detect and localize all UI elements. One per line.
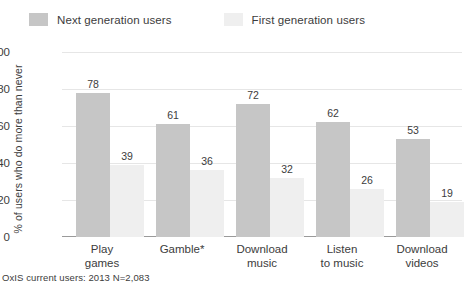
y-tick-label-0: 0 (0, 231, 10, 243)
x-label-download-music-line1: Download (220, 243, 304, 257)
y-tick-label-60: 60 (0, 120, 10, 132)
y-tick-label-100: 100 (0, 46, 10, 58)
y-axis-title: % of users who do more than never (12, 54, 24, 244)
bar-group-gamble: 61 36 (142, 52, 222, 237)
bar-group-download-music: 72 32 (222, 52, 302, 237)
bar-value-next-generation-gamble: 61 (151, 109, 195, 121)
bar-first-generation-listen-to-music[interactable]: 26 (350, 189, 384, 237)
x-label-listen-to-music: Listen to music (300, 243, 384, 270)
bar-first-generation-download-music[interactable]: 32 (270, 178, 304, 237)
bar-first-generation-play-games[interactable]: 39 (110, 165, 144, 237)
x-label-listen-to-music-line2: to music (300, 257, 384, 271)
x-label-download-music: Download music (220, 243, 304, 270)
bar-value-next-generation-download-videos: 53 (391, 124, 435, 136)
bar-next-generation-gamble[interactable]: 61 (156, 124, 190, 237)
bar-next-generation-play-games[interactable]: 78 (76, 93, 110, 237)
x-label-play-games: Play games (60, 243, 144, 270)
y-tick-label-40: 40 (0, 157, 10, 169)
bar-value-next-generation-play-games: 78 (71, 78, 115, 90)
bar-series-container: 78 39 61 36 72 32 62 (62, 52, 462, 237)
y-tick-label-20: 20 (0, 194, 10, 206)
x-label-gamble-line1: Gamble* (140, 243, 224, 257)
bar-value-first-generation-download-videos: 19 (425, 187, 469, 199)
y-tick-label-80: 80 (0, 83, 10, 95)
x-label-listen-to-music-line1: Listen (300, 243, 384, 257)
bar-first-generation-download-videos[interactable]: 19 (430, 202, 464, 237)
x-label-download-music-line2: music (220, 257, 304, 271)
x-label-download-videos-line1: Download (380, 243, 464, 257)
chart-footnote: OxIS current users: 2013 N=2,083 (2, 272, 150, 283)
x-label-gamble: Gamble* (140, 243, 224, 257)
x-label-play-games-line1: Play (60, 243, 144, 257)
x-label-download-videos: Download videos (380, 243, 464, 270)
chart-plot: % of users who do more than never 100 80… (0, 0, 472, 291)
bar-first-generation-gamble[interactable]: 36 (190, 170, 224, 237)
bar-group-play-games: 78 39 (62, 52, 142, 237)
bar-value-next-generation-download-music: 72 (231, 89, 275, 101)
bar-group-download-videos: 53 19 (382, 52, 462, 237)
bar-value-next-generation-listen-to-music: 62 (311, 107, 355, 119)
bar-group-listen-to-music: 62 26 (302, 52, 382, 237)
x-label-download-videos-line2: videos (380, 257, 464, 271)
x-label-play-games-line2: games (60, 257, 144, 271)
